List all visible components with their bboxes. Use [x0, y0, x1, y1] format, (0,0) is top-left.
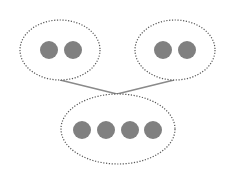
- left-group: [20, 20, 100, 80]
- gray-dot: [178, 41, 196, 59]
- gray-dot: [40, 41, 58, 59]
- dotted-ellipse: [20, 20, 100, 80]
- gray-dot: [121, 121, 139, 139]
- dotted-ellipse: [135, 20, 215, 80]
- gray-dot: [64, 41, 82, 59]
- bottom-group: [61, 94, 175, 164]
- right-group: [135, 20, 215, 80]
- gray-dot: [97, 121, 115, 139]
- connector-line-right-group: [117, 80, 174, 94]
- gray-dot: [73, 121, 91, 139]
- gray-dot: [144, 121, 162, 139]
- connector-line-left-group: [60, 80, 117, 94]
- diagram-canvas: [0, 0, 227, 174]
- gray-dot: [154, 41, 172, 59]
